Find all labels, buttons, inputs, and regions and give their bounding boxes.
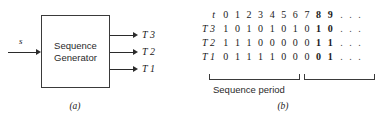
sequence-row-cells: 0123456789 [220,9,336,20]
panel-a-block-diagram: s Sequence Generator T 3 T 2 T 1 (a) [0,0,193,124]
sequence-cell: 0 [220,9,232,20]
sequence-ellipsis: ... [336,51,364,62]
sequence-table: t0123456789...T 31010101010...T 21110000… [193,9,364,65]
sequence-cell: 1 [220,37,232,48]
sequence-cell: 0 [290,51,302,62]
sequence-period-bracket [209,74,300,80]
sequence-ellipsis-dot: . [355,37,364,48]
input-label-s: s [19,36,23,46]
output-label-t1: T 1 [142,63,155,74]
sequence-cell: 4 [266,9,278,20]
sequence-cell: 8 [313,9,325,20]
sequence-ellipsis-dot: . [355,23,364,34]
sequence-cell: 1 [313,37,325,48]
sequence-ellipsis: ... [336,37,364,48]
sequence-ellipsis-dot: . [346,9,355,20]
sequence-cell: 1 [255,51,267,62]
sequence-row-label: t [193,9,220,20]
sequence-cell: 9 [324,9,336,20]
output-wire-t2 [110,52,135,53]
sequence-generator-block: Sequence Generator [41,15,110,88]
sequence-row-cells: 1010101010 [220,23,336,34]
sequence-cell: 0 [301,23,313,34]
sequence-row-cells: 0111100001 [220,51,336,62]
sequence-ellipsis-dot: . [337,23,346,34]
caption-panel-a: (a) [55,101,95,111]
sequence-ellipsis-dot: . [355,51,364,62]
sequence-ellipsis-dot: . [346,23,355,34]
sequence-cell: 1 [324,51,336,62]
sequence-cell: 1 [290,23,302,34]
sequence-row: t0123456789... [193,9,364,23]
output-arrowhead-t1-icon [133,66,138,72]
sequence-cell: 1 [243,37,255,48]
sequence-row-label: T 2 [193,37,220,48]
sequence-cell: 7 [301,9,313,20]
sequence-ellipsis-dot: . [337,9,346,20]
sequence-cell: 5 [278,9,290,20]
output-wire-t3 [110,35,135,36]
sequence-cell: 0 [324,23,336,34]
sequence-cell: 1 [324,37,336,48]
sequence-repeat-bracket [304,74,375,80]
sequence-cell: 3 [255,9,267,20]
sequence-cell: 6 [290,9,302,20]
sequence-cell: 0 [278,51,290,62]
sequence-cell: 0 [255,37,267,48]
output-arrowhead-t2-icon [133,49,138,55]
sequence-cell: 1 [313,23,325,34]
sequence-cell: 2 [243,9,255,20]
sequence-ellipsis: ... [336,23,364,34]
sequence-cell: 1 [232,37,244,48]
sequence-cell: 0 [220,51,232,62]
sequence-cell: 0 [232,23,244,34]
output-label-t3: T 3 [142,29,155,40]
sequence-cell: 0 [266,37,278,48]
sequence-cell: 0 [255,23,267,34]
sequence-ellipsis-dot: . [355,9,364,20]
panel-b-sequence-table: t0123456789...T 31010101010...T 21110000… [193,0,387,124]
sequence-cell: 0 [301,51,313,62]
sequence-row-cells: 1110000011 [220,37,336,48]
sequence-cell: 1 [232,9,244,20]
sequence-cell: 0 [290,37,302,48]
sequence-cell: 0 [301,37,313,48]
sequence-ellipsis-dot: . [346,51,355,62]
sequence-cell: 0 [278,37,290,48]
output-wire-t1 [110,69,135,70]
sequence-cell: 1 [232,51,244,62]
sequence-cell: 0 [313,51,325,62]
output-label-t2: T 2 [142,46,155,57]
sequence-cell: 1 [266,51,278,62]
sequence-ellipsis-dot: . [346,37,355,48]
caption-panel-b: (b) [263,101,303,111]
sequence-generator-block-label: Sequence Generator [42,40,109,64]
output-arrowhead-t3-icon [133,32,138,38]
sequence-ellipsis: ... [336,9,364,20]
sequence-cell: 1 [243,23,255,34]
sequence-cell: 1 [220,23,232,34]
sequence-row: T 31010101010... [193,23,364,37]
sequence-row-label: T 1 [193,51,220,62]
input-wire [8,52,38,53]
sequence-row-label: T 3 [193,23,220,34]
figure-root: s Sequence Generator T 3 T 2 T 1 (a) t01… [0,0,387,124]
sequence-ellipsis-dot: . [337,51,346,62]
sequence-row: T 10111100001... [193,51,364,65]
sequence-cell: 0 [278,23,290,34]
sequence-ellipsis-dot: . [337,37,346,48]
sequence-cell: 1 [243,51,255,62]
sequence-row: T 21110000011... [193,37,364,51]
sequence-period-caption: Sequence period [213,84,285,95]
sequence-cell: 1 [266,23,278,34]
